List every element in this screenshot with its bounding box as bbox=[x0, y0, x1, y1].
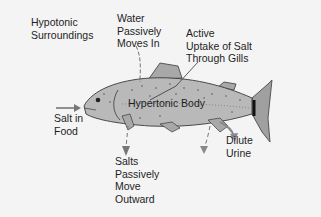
water-in-label: Water Passively Moves In bbox=[117, 12, 161, 50]
salt-food-label: Salt in Food bbox=[54, 112, 83, 137]
fish-eye bbox=[96, 98, 101, 103]
salts-out-label: Salts Passively Move Outward bbox=[115, 155, 159, 205]
surroundings-label: Hypotonic Surroundings bbox=[31, 16, 93, 41]
salts-out-arrow bbox=[126, 126, 128, 148]
water-in-arrow bbox=[136, 46, 140, 82]
active-uptake-label: Active Uptake of Salt Through Gills bbox=[186, 27, 252, 65]
body-label: Hypertonic Body bbox=[128, 97, 205, 110]
urine-label: Dilute Urine bbox=[226, 134, 253, 159]
